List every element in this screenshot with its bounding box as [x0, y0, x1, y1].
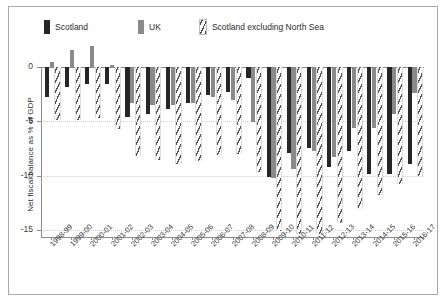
bar-uk-2010-11[interactable]: [291, 67, 295, 169]
bar-scotland-2008-09[interactable]: [246, 67, 250, 78]
bar-scotland-excluding-north-sea-2002-03[interactable]: [135, 67, 141, 156]
bar-scotland-1999-00[interactable]: [65, 67, 69, 87]
bar-scotland-excluding-north-sea-2007-08[interactable]: [236, 67, 242, 154]
bar-uk-1998-99[interactable]: [50, 62, 54, 67]
bar-group: [122, 67, 142, 237]
bar-scotland-excluding-north-sea-2014-15[interactable]: [377, 67, 383, 195]
legend-swatch-scotland: [44, 20, 50, 34]
legend-label-scotland-ex-north-sea: Scotland excluding North Sea: [212, 22, 324, 32]
bar-scotland-2006-07[interactable]: [206, 67, 210, 95]
bar-scotland-2013-14[interactable]: [347, 67, 351, 151]
bar-uk-2002-03[interactable]: [130, 67, 134, 103]
bar-scotland-excluding-north-sea-2003-04[interactable]: [155, 67, 161, 160]
bar-scotland-2009-10[interactable]: [267, 67, 271, 177]
bar-scotland-2002-03[interactable]: [125, 67, 129, 117]
y-tick-label--5: -5: [3, 115, 33, 125]
bar-scotland-excluding-north-sea-1998-99[interactable]: [54, 67, 60, 120]
bar-group: [222, 67, 242, 237]
bar-group: [343, 67, 363, 237]
chart-legend: Scotland UK Scotland excluding North Sea: [44, 19, 324, 35]
bar-scotland-2004-05[interactable]: [166, 67, 170, 109]
bar-scotland-excluding-north-sea-2012-13[interactable]: [337, 67, 343, 223]
bar-group: [162, 67, 182, 237]
y-tick-label-0: 0: [3, 61, 33, 71]
bar-uk-1999-00[interactable]: [70, 50, 74, 67]
bar-scotland-2003-04[interactable]: [146, 67, 150, 114]
bar-scotland-excluding-north-sea-2005-06[interactable]: [195, 67, 201, 161]
bar-group: [263, 67, 283, 237]
bar-scotland-2007-08[interactable]: [226, 67, 230, 92]
bar-group: [101, 67, 121, 237]
bar-uk-2006-07[interactable]: [211, 67, 215, 97]
bar-scotland-excluding-north-sea-2001-02[interactable]: [115, 67, 121, 129]
bar-group: [243, 67, 263, 237]
bar-group: [182, 67, 202, 237]
legend-label-uk: UK: [149, 22, 161, 32]
bar-uk-2016-17[interactable]: [412, 67, 416, 93]
bar-scotland-excluding-north-sea-2015-16[interactable]: [397, 67, 403, 184]
legend-swatch-scotland-ex-north-sea: [199, 19, 207, 35]
bar-group: [41, 67, 61, 237]
bar-scotland-excluding-north-sea-2016-17[interactable]: [417, 67, 423, 176]
bar-scotland-2001-02[interactable]: [105, 67, 109, 84]
bar-group: [384, 67, 404, 237]
bar-groups: [41, 67, 424, 237]
bar-scotland-excluding-north-sea-2000-01[interactable]: [95, 67, 101, 118]
y-axis-title: Net fiscal balance as % of GDP: [26, 65, 35, 245]
bar-scotland-excluding-north-sea-2004-05[interactable]: [175, 67, 181, 164]
bar-scotland-excluding-north-sea-2010-11[interactable]: [296, 67, 302, 234]
bar-group: [404, 67, 424, 237]
y-tick-label--15: -15: [3, 224, 33, 234]
bar-scotland-2012-13[interactable]: [327, 67, 331, 167]
bar-group: [202, 67, 222, 237]
bar-scotland-1998-99[interactable]: [45, 67, 49, 97]
bar-group: [142, 67, 162, 237]
legend-item-scotland-ex-north-sea: Scotland excluding North Sea: [199, 19, 324, 35]
bar-scotland-2011-12[interactable]: [307, 67, 311, 148]
y-tick-label--10: -10: [3, 170, 33, 180]
bar-scotland-excluding-north-sea-2009-10[interactable]: [276, 67, 282, 231]
bar-group: [61, 67, 81, 237]
bar-uk-2000-01[interactable]: [90, 46, 94, 67]
bar-uk-2003-04[interactable]: [150, 67, 154, 105]
legend-item-uk: UK: [138, 20, 161, 34]
bar-uk-2013-14[interactable]: [352, 67, 356, 128]
bar-uk-2011-12[interactable]: [312, 67, 316, 151]
bar-uk-2007-08[interactable]: [231, 67, 235, 100]
bar-group: [81, 67, 101, 237]
bar-scotland-excluding-north-sea-2013-14[interactable]: [357, 67, 363, 209]
bar-scotland-2014-15[interactable]: [367, 67, 371, 174]
bar-uk-2014-15[interactable]: [372, 67, 376, 128]
bar-uk-2015-16[interactable]: [392, 67, 396, 114]
bar-uk-2005-06[interactable]: [191, 67, 195, 103]
bar-uk-2009-10[interactable]: [271, 67, 275, 178]
legend-swatch-uk: [138, 20, 144, 34]
bar-group: [323, 67, 343, 237]
bar-uk-2001-02[interactable]: [110, 65, 114, 67]
bar-uk-2004-05[interactable]: [171, 67, 175, 105]
bar-group: [283, 67, 303, 237]
bar-scotland-2000-01[interactable]: [85, 67, 89, 84]
chart-figure: Scotland UK Scotland excluding North Sea…: [0, 0, 448, 305]
bar-group: [303, 67, 323, 237]
bar-uk-2008-09[interactable]: [251, 67, 255, 122]
legend-label-scotland: Scotland: [55, 22, 88, 32]
bar-scotland-2015-16[interactable]: [387, 67, 391, 174]
bar-scotland-excluding-north-sea-2011-12[interactable]: [316, 67, 322, 234]
bar-scotland-2010-11[interactable]: [287, 67, 291, 153]
bar-scotland-excluding-north-sea-2008-09[interactable]: [256, 67, 262, 172]
bar-uk-2012-13[interactable]: [332, 67, 336, 157]
bar-scotland-excluding-north-sea-2006-07[interactable]: [216, 67, 222, 155]
bar-scotland-2005-06[interactable]: [186, 67, 190, 103]
legend-item-scotland: Scotland: [44, 20, 88, 34]
bar-scotland-2016-17[interactable]: [408, 67, 412, 164]
bar-group: [364, 67, 384, 237]
bar-scotland-excluding-north-sea-1999-00[interactable]: [75, 67, 81, 120]
